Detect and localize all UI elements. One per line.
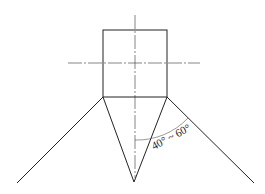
left-flank-line — [17, 97, 103, 183]
tool-geometry-diagram: 40° ~ 60° — [0, 0, 265, 194]
right-flank-line — [167, 97, 254, 183]
diagram-canvas: 40° ~ 60° — [0, 0, 265, 194]
